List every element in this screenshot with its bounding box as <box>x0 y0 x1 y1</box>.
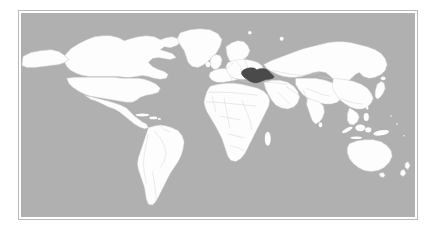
island-sri-lanka <box>319 123 323 128</box>
island-taiwan <box>366 106 368 110</box>
map-plate-ocean <box>21 13 415 217</box>
island-philippines <box>364 113 369 121</box>
island-svalbard <box>248 31 252 35</box>
island-pacific-1 <box>396 123 398 125</box>
island-hispaniola <box>149 117 157 120</box>
region-japan <box>375 81 385 99</box>
region-british-isles <box>210 55 222 70</box>
region-new-zealand-south <box>400 169 406 176</box>
island-pacific-3 <box>390 115 391 116</box>
island-hokkaido <box>381 76 386 80</box>
island-borneo <box>355 125 365 132</box>
island-pacific-2 <box>403 135 404 136</box>
island-madagascar <box>265 132 271 146</box>
map-frame <box>18 10 418 220</box>
region-alaska <box>22 50 69 68</box>
region-east-asia <box>332 78 373 109</box>
region-tasmania <box>379 172 385 177</box>
region-new-zealand <box>405 162 410 170</box>
region-russia-north-asia <box>264 42 387 85</box>
island-iceland <box>204 48 208 52</box>
island-new-guinea <box>373 129 390 137</box>
world-map-figure <box>0 0 434 231</box>
island-cuba <box>135 113 149 116</box>
island-puerto-rico <box>158 118 161 120</box>
world-map-svg <box>21 13 415 217</box>
region-australia <box>347 140 392 172</box>
island-sumatra <box>341 125 353 134</box>
region-southeast-asia <box>347 108 359 125</box>
island-novaya-zemlya <box>280 37 284 41</box>
island-java <box>350 136 362 139</box>
region-south-america <box>137 125 184 205</box>
region-canada <box>65 36 180 80</box>
island-sulawesi <box>365 127 371 132</box>
island-ireland <box>206 62 211 68</box>
region-africa <box>204 83 270 161</box>
region-united-states <box>67 77 161 102</box>
